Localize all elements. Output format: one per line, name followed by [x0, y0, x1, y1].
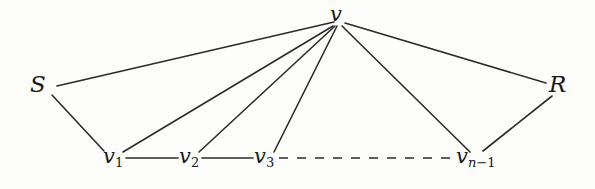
edge-v-to-S: [57, 22, 334, 86]
edge-vn1-to-R: [483, 96, 552, 151]
node-label-S: S: [30, 73, 46, 96]
node-label-v1-base: v: [103, 144, 115, 168]
edge-layer: [52, 22, 552, 158]
node-label-v: v: [330, 4, 342, 25]
node-label-vn1: vn−1: [456, 146, 496, 169]
node-label-v3-sub: 3: [266, 155, 274, 170]
graph-figure: v S R v1 v2 v3 vn−1: [0, 0, 595, 189]
node-label-v3-base: v: [254, 144, 266, 168]
node-label-S-text: S: [30, 71, 46, 97]
node-label-v2-base: v: [179, 144, 191, 168]
node-label-v1: v1: [103, 146, 123, 169]
node-label-v2-sub: 2: [191, 155, 199, 170]
node-label-vn1-sub-rest: −1: [476, 155, 495, 170]
node-label-v3: v3: [254, 146, 274, 169]
edge-v-to-vn1: [342, 26, 470, 152]
node-label-v1-sub: 1: [115, 155, 123, 170]
node-label-R: R: [549, 73, 566, 96]
edge-v-to-v3: [274, 26, 337, 152]
edge-v-to-v1: [123, 26, 333, 152]
edge-S-to-v1: [52, 95, 104, 151]
edge-v-to-R: [345, 23, 546, 83]
node-label-v2: v2: [179, 146, 199, 169]
graph-canvas: [0, 0, 595, 189]
node-label-R-text: R: [549, 71, 566, 97]
node-label-v-text: v: [330, 2, 342, 26]
node-label-vn1-base: v: [456, 144, 468, 168]
edge-v-to-v2: [199, 26, 335, 152]
